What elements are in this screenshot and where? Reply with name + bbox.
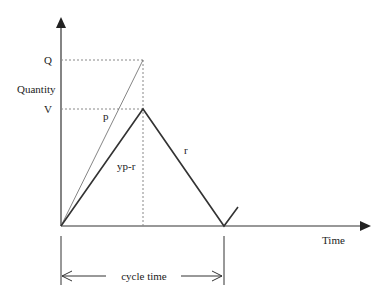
net-rate-label: yp-r [117,160,136,172]
v-tick-label: V [44,103,52,115]
y-axis-label: Quantity [17,83,56,95]
cycle-time-label: cycle time [121,270,167,282]
x-axis-arrow-icon [360,221,371,231]
production-rate-label: p [103,110,109,122]
y-axis-arrow-icon [56,17,66,28]
inventory-diagram: Q V Quantity Time p yp-r r cycle time [0,0,389,303]
production-rate-line [61,60,143,226]
y-axis [56,17,66,226]
inventory-level-line [61,109,238,226]
x-axis-label: Time [322,234,345,246]
demand-rate-label: r [184,144,188,156]
x-axis [61,221,371,231]
q-tick-label: Q [44,54,52,66]
